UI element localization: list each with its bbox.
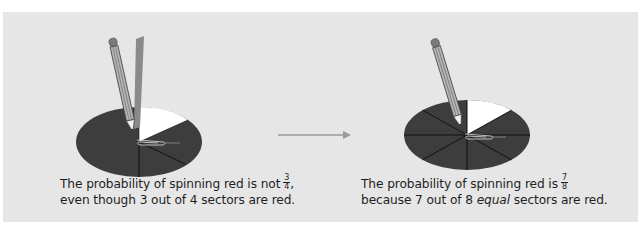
right-caption-line2-prefix: because 7 out of 8 [361,193,473,207]
fraction-seven-eighths: 78 [561,174,568,191]
right-caption-line2: because 7 out of 8 equal sectors are red… [361,193,608,208]
left-spinner [76,36,202,177]
left-caption-comma: , [290,177,294,191]
arrow-right-icon [278,131,351,139]
left-caption-line2: even though 3 out of 4 sectors are red. [60,193,295,208]
fraction-denominator: 8 [561,183,568,191]
fraction-three-fourths: 34 [283,174,290,191]
right-spinner-dividers [404,100,530,170]
fraction-denominator: 4 [283,183,290,191]
right-caption-line1: The probability of spinning red is78 [361,176,608,193]
left-caption-line1: The probability of spinning red is not34… [60,176,295,193]
right-spinner [404,100,530,170]
left-caption-text: The probability of spinning red is not [60,177,280,191]
right-caption-text: The probability of spinning red is [361,177,558,191]
right-caption-emphasis: equal [477,193,510,207]
left-caption: The probability of spinning red is not34… [60,176,295,208]
right-caption-line2-suffix: sectors are red. [514,193,608,207]
right-caption: The probability of spinning red is78 bec… [361,176,608,208]
